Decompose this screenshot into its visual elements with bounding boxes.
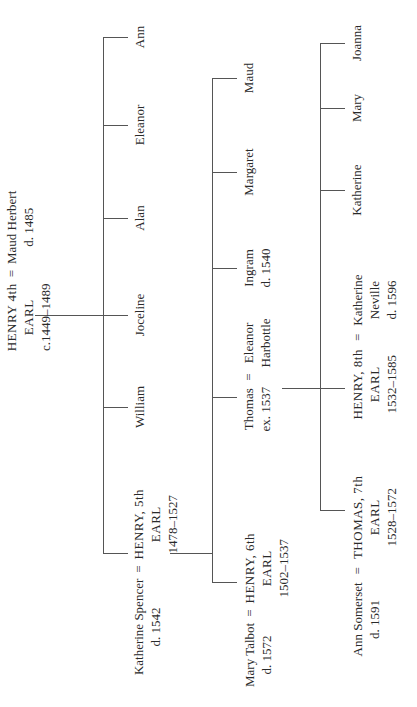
name-2: Harbottle	[257, 318, 274, 367]
person-henry-4th: HENRY 4th EARL c.1449–1489	[3, 283, 54, 351]
dates: d. 1591	[366, 582, 383, 656]
name: Maud Herbert	[3, 191, 20, 264]
dates: 1528–1572	[383, 476, 400, 560]
name: HENRY 4th	[3, 283, 20, 351]
sibling-bar-gen3	[212, 78, 213, 554]
tick-maud	[212, 78, 237, 79]
name: Ingram	[240, 249, 257, 288]
dates: d. 1485	[20, 191, 37, 264]
marriage-sign: =	[349, 334, 366, 341]
name-2: Neville	[366, 274, 383, 325]
tick-margaret	[212, 172, 237, 173]
tick-thomas	[212, 397, 237, 398]
tick-thomas-7th	[320, 510, 345, 511]
person-ann-somerset: Ann Somerset d. 1591	[349, 582, 383, 656]
marriage-sign: =	[3, 270, 20, 277]
title: EARL	[366, 349, 383, 420]
person-thomas-7th: THOMAS, 7th EARL 1528–1572	[349, 476, 400, 560]
name: Mary Talbot	[241, 623, 258, 687]
name: HENRY, 8th	[349, 349, 366, 420]
tick-alan	[103, 218, 128, 219]
dates: 1478–1527	[164, 489, 181, 560]
name: Eleanor	[240, 318, 257, 367]
title: EARL	[20, 283, 37, 351]
name: HENRY, 5th	[130, 489, 147, 560]
tick-mary	[320, 108, 345, 109]
marriage-sign: =	[130, 565, 147, 572]
tick-eleanor	[103, 125, 128, 126]
sibling-bar-gen4	[320, 43, 321, 511]
name: Katherine Spencer	[130, 579, 147, 675]
person-henry-5th: HENRY, 5th EARL 1478–1527	[130, 489, 181, 560]
descent-line-6th-earl	[282, 388, 320, 389]
tick-ingram	[212, 268, 237, 269]
marriage-sign: =	[349, 567, 366, 574]
dates: 1502–1537	[275, 533, 292, 604]
person-thomas: Thomas ex. 1537	[240, 387, 274, 432]
dates: 1532–1585	[383, 349, 400, 420]
sibling-bar-gen2	[103, 37, 104, 554]
tick-henry-8th	[320, 388, 345, 389]
tick-ann	[103, 37, 128, 38]
tick-joceline	[103, 315, 128, 316]
name: Katherine	[349, 274, 366, 325]
dates: d. 1540	[257, 249, 274, 288]
name: Thomas	[240, 387, 257, 432]
dates: d. 1596	[383, 274, 400, 325]
dates: d. 1542	[147, 579, 164, 675]
marriage-sign: =	[241, 609, 258, 616]
dates: ex. 1537	[257, 387, 274, 432]
person-eleanor-harbottle: Eleanor Harbottle	[240, 318, 274, 367]
tick-william	[103, 407, 128, 408]
name: HENRY, 6th	[241, 533, 258, 604]
tick-henry-6th	[212, 553, 213, 583]
person-henry-8th: HENRY, 8th EARL 1532–1585	[349, 349, 400, 420]
tick-henry-6th-h	[212, 582, 237, 583]
title: EARL	[258, 533, 275, 604]
title: EARL	[366, 476, 383, 560]
dates: c.1449–1489	[37, 283, 54, 351]
name: Ann Somerset	[349, 582, 366, 656]
person-katherine-spencer: Katherine Spencer d. 1542	[130, 579, 164, 675]
name: THOMAS, 7th	[349, 476, 366, 560]
person-mary-talbot: Mary Talbot d. 1572	[241, 623, 275, 687]
tick-joanna	[320, 43, 345, 44]
tick-katherine	[320, 190, 345, 191]
person-henry-6th: HENRY, 6th EARL 1502–1537	[241, 533, 292, 604]
title: EARL	[147, 489, 164, 560]
dates: d. 1572	[258, 623, 275, 687]
person-maud-herbert: Maud Herbert d. 1485	[3, 191, 37, 264]
tick-henry-5th	[103, 553, 128, 554]
person-katherine-neville: Katherine Neville d. 1596	[349, 274, 400, 325]
marriage-sign: =	[240, 373, 257, 380]
